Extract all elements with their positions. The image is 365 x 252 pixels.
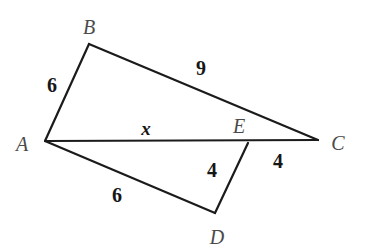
vertex-label-a: A bbox=[16, 134, 28, 154]
segment-AD bbox=[45, 141, 215, 213]
length-AE: x bbox=[141, 119, 151, 138]
length-AD: 6 bbox=[112, 185, 122, 205]
segment-AC bbox=[45, 140, 318, 141]
vertex-label-d: D bbox=[210, 227, 224, 247]
geometry-figure: ABCDE69x446 bbox=[0, 0, 365, 252]
segment-DE bbox=[215, 143, 248, 213]
vertex-label-e: E bbox=[233, 116, 245, 136]
segments-group bbox=[45, 44, 318, 213]
vertex-label-c: C bbox=[331, 133, 344, 153]
length-BC: 9 bbox=[196, 58, 206, 78]
vertex-label-b: B bbox=[83, 17, 95, 37]
length-EC: 4 bbox=[273, 151, 283, 171]
length-ED: 4 bbox=[207, 160, 217, 180]
figure-canvas bbox=[0, 0, 365, 252]
length-AB: 6 bbox=[47, 75, 57, 95]
